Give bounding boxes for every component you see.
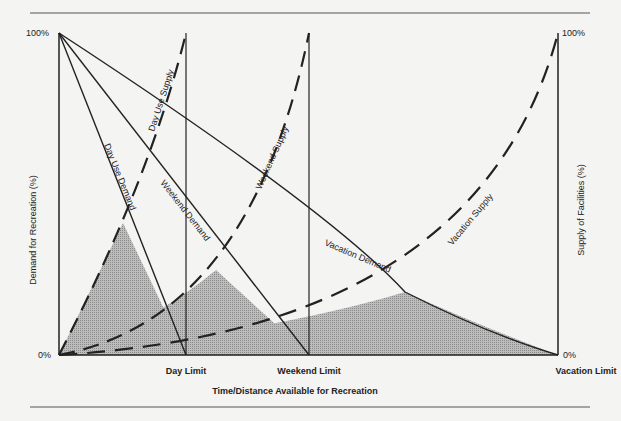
right-bottom-tick: 0% (563, 350, 576, 360)
weekend-limit-label: Weekend Limit (277, 366, 340, 376)
weekend-supply-label: Weekend Supply (254, 124, 291, 191)
day-use-supply-label: Day Use Supply (146, 68, 176, 133)
vacation-supply-label: Vacation Supply (446, 191, 495, 247)
right-axis-title: Supply of Facilities (%) (576, 164, 586, 256)
left-top-tick: 100% (26, 28, 49, 38)
day-use-demand-label: Day Use Demand (102, 142, 138, 212)
weekend-demand-label: Weekend Demand (158, 178, 212, 243)
left-axis-title: Demand for Recreation (%) (28, 175, 38, 285)
x-axis-title: Time/Distance Available for Recreation (212, 386, 378, 396)
right-top-tick: 100% (562, 28, 585, 38)
left-bottom-tick: 0% (38, 350, 51, 360)
day-limit-label: Day Limit (166, 366, 207, 376)
vacation-demand-label: Vacation Demand (323, 238, 392, 275)
recreation-demand-supply-diagram: 100% 0% 100% 0% Day Limit Weekend Limit … (0, 0, 621, 421)
vacation-limit-label: Vacation Limit (555, 366, 616, 376)
